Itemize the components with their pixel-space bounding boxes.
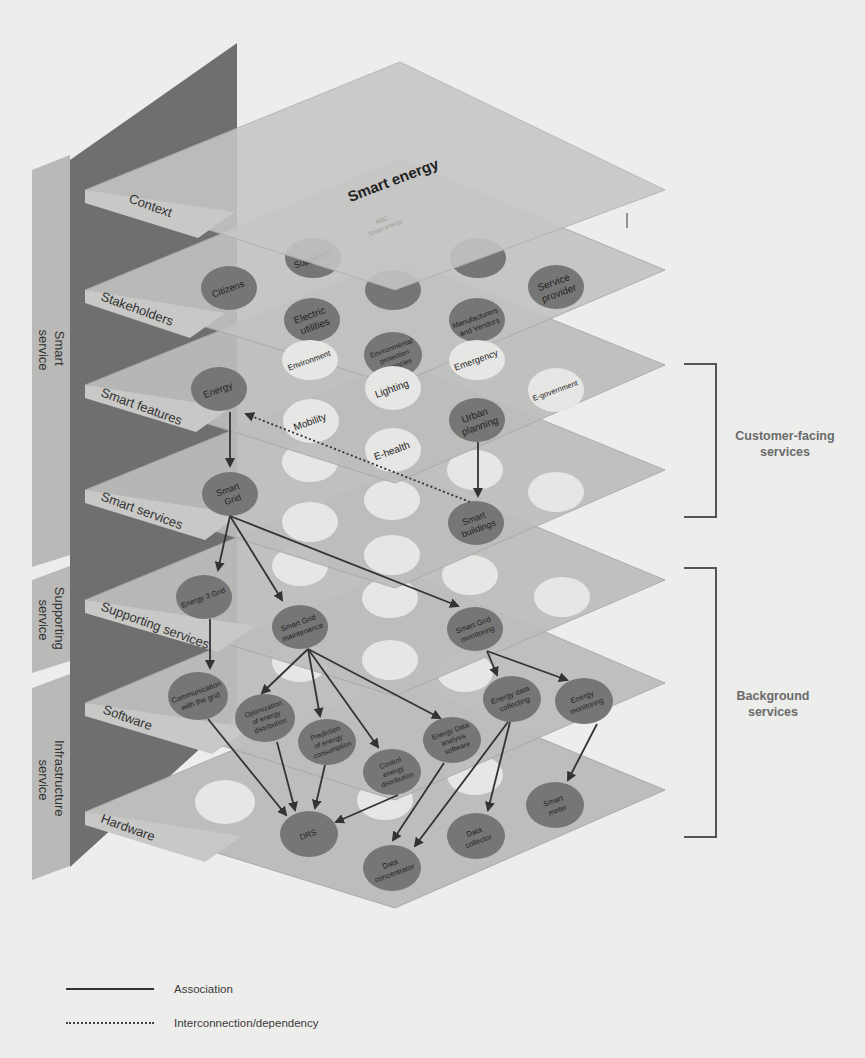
side-band-supporting-service: Supporting service [32,566,70,673]
node-environment: Environment [282,340,338,380]
node-emergency: Emergency [449,340,505,380]
node-lighting: Lighting [365,366,421,410]
node-energy-data-collecting: Energy data collecting [483,676,541,722]
node-energy-3-grid: Energy 3 Grid [176,575,232,619]
node-smart-grid-monitoring: Smart Grid monitoring [447,607,503,651]
node-smart-grid: Smart Grid [202,472,258,516]
node-mobility: Mobility [283,399,339,443]
smart-energy-layered-diagram: Smart service Supporting service Infrast… [0,0,865,1058]
bracket-customer-facing [684,364,716,517]
node-electric-utilities: Electric utilities [284,298,340,342]
node-e-government: E-government [528,368,584,412]
side-label-smart-service: Smart service [36,329,67,370]
node-smart-buildings: Smart buildings [448,501,504,545]
node-data-concentrator: Data concentrator [363,845,421,891]
side-band-smart-service: Smart service [32,155,70,567]
node-communication-with-grid: Communication with the grid [168,672,228,720]
node-energy-monitoring: Energy monitoring [555,678,613,724]
bracket-label-customer-facing: Customer-facing services [725,428,845,460]
legend-association: Association [66,983,233,995]
node-manufacturers-vendors: Manufacturers and Vendors [449,298,505,342]
node-citizens: Citizens [201,266,257,310]
node-drs: DRS [280,811,338,857]
node-energy: Energy [191,367,247,411]
bracket-label-background: Background services [718,688,828,720]
legend-label-association: Association [174,983,233,995]
dotted-line-icon [66,1022,154,1024]
node-smart-grid-maintenance: Smart Grid maintenance [272,605,328,649]
node-e-health: E-health [365,428,421,472]
node-data-collector: Data collector [447,813,505,859]
node-service-provider: Service provider [528,265,584,309]
legend-label-dependency: Interconnection/dependency [174,1017,319,1029]
bracket-background [684,568,716,837]
node-prediction-energy-consumption: Prediction of energy consumption [298,719,356,765]
legend-dependency: Interconnection/dependency [66,1017,319,1029]
node-control-energy-distribution: Control energy distribution [363,749,421,795]
node-smart-meter: Smart meter [526,782,584,828]
side-band-infrastructure-service: Infrastructure service [32,674,70,880]
node-urban-planning: Urban planning [449,398,505,442]
solid-line-icon [66,988,154,990]
node-energy-data-analysis-software: Energy Data analysis software [423,717,481,763]
node-optimization-energy-distribution: Optimization of energy distribution [235,694,295,742]
